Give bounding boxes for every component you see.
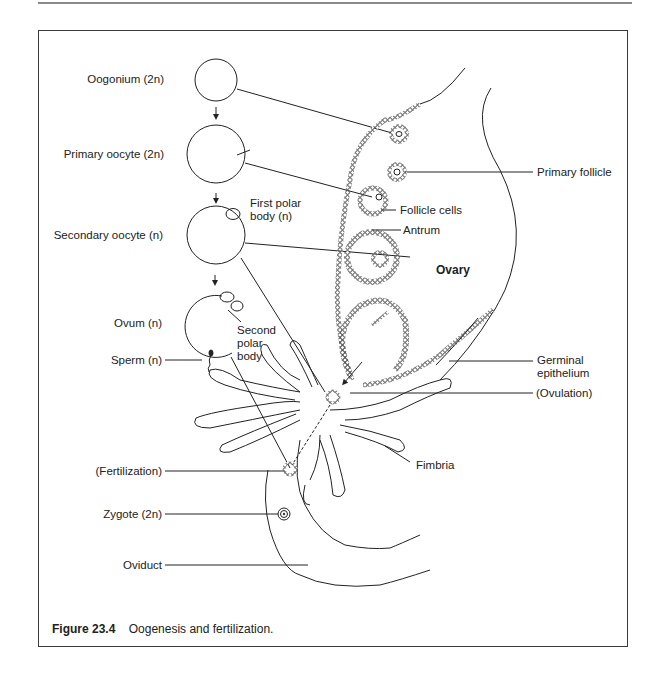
label-primary-follicle: Primary follicle [537,166,612,179]
ovary-outline [420,68,465,104]
ovum-cell [185,295,232,357]
figure-caption-text: Oogenesis and fertilization. [129,622,274,636]
second-polar-body-2 [231,301,243,311]
first-polar-body [226,209,240,220]
primary-oocyte-cell [187,125,245,183]
label-fertilization: (Fertilization) [96,465,162,478]
label-second-polar-body: Second polar body [237,324,276,363]
oviduct [265,470,430,586]
oogenesis-diagram [0,0,660,673]
secondary-oocyte-cell [187,206,245,264]
label-germinal-epithelium: Germinal epithelium [537,354,589,380]
label-ovary: Ovary [436,264,470,277]
label-zygote: Zygote (2n) [103,508,162,521]
figure-caption: Figure 23.4 Oogenesis and fertilization. [52,622,273,636]
label-oviduct: Oviduct [123,559,162,572]
label-fimbria: Fimbria [416,459,454,472]
label-first-polar-body: First polar body (n) [250,197,301,223]
growing-follicle [360,188,386,214]
label-secondary-oocyte: Secondary oocyte (n) [54,229,163,242]
label-ovulation: (Ovulation) [536,387,592,400]
label-follicle-cells: Follicle cells [400,204,462,217]
primordial-follicle [391,126,407,142]
primary-follicle [389,164,405,180]
label-sperm: Sperm (n) [111,354,162,367]
mature-follicle [342,300,406,375]
figure-number: Figure 23.4 [52,622,115,636]
label-primary-oocyte: Primary oocyte (2n) [64,148,164,161]
oogonium-cell [195,59,237,101]
label-antrum: Antrum [403,224,440,237]
label-ovum: Ovum (n) [114,317,162,330]
label-oogonium: Oogonium (2n) [87,73,164,86]
second-polar-body-1 [220,292,234,302]
